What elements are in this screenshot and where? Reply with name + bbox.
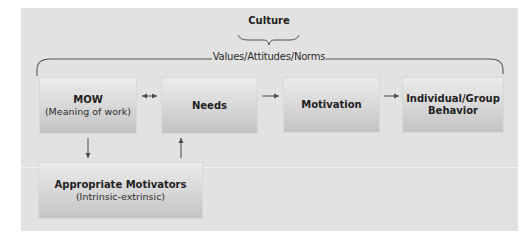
node-subtitle: (Meaning of work)	[45, 106, 131, 118]
node-behavior: Individual/Group Behavior	[403, 78, 503, 132]
node-title: MOW	[73, 94, 102, 106]
values-label: Values/Attitudes/Norms	[200, 51, 338, 62]
node-subtitle: (Intrinsic-extrinsic)	[76, 191, 165, 203]
culture-label: Culture	[229, 15, 309, 26]
node-title: Motivation	[301, 99, 362, 111]
node-title: Needs	[192, 100, 227, 112]
values-bracket	[37, 59, 212, 76]
node-title: Individual/Group Behavior	[400, 93, 506, 117]
node-motivation: Motivation	[284, 78, 379, 132]
node-mow: MOW (Meaning of work)	[40, 78, 136, 133]
culture-brace	[238, 35, 299, 45]
node-title: Appropriate Motivators	[55, 179, 187, 191]
node-needs: Needs	[162, 78, 257, 133]
node-appropriate-motivators: Appropriate Motivators (Intrinsic-extrin…	[39, 163, 202, 218]
